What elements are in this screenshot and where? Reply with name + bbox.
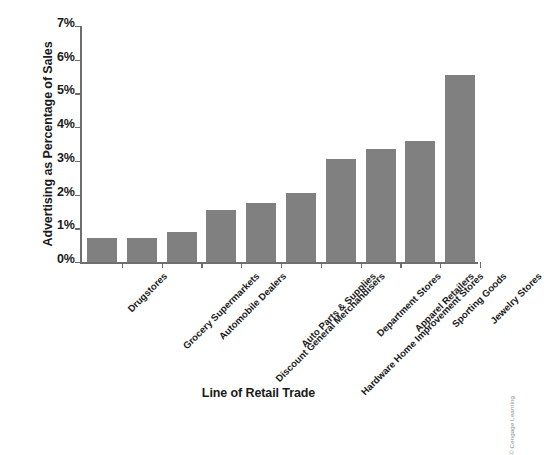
y-tick-mark: [75, 93, 81, 94]
y-tick-mark: [75, 127, 81, 128]
y-tick-label: 7%: [57, 17, 75, 30]
x-axis-label-0: Drugstores: [126, 271, 169, 314]
bar-2: [167, 232, 197, 262]
y-tick-label: 4%: [57, 118, 75, 131]
bar-5: [286, 193, 316, 262]
y-axis-title: Advertising as Percentage of Sales: [41, 19, 55, 269]
x-tick-mark-9: [480, 262, 481, 268]
x-axis-label-4: Auto Parts & Supplies: [300, 271, 378, 349]
bar-0: [87, 238, 117, 262]
x-tick-mark-2: [201, 262, 202, 268]
y-tick-label: 2%: [57, 186, 75, 199]
y-tick-label: 1%: [57, 219, 75, 232]
y-tick-mark: [75, 228, 81, 229]
y-tick-label: 3%: [57, 152, 75, 165]
bar-6: [326, 159, 356, 262]
x-axis-line: [80, 262, 478, 264]
x-axis-label-7: Apparel Retailers: [413, 271, 476, 334]
y-tick-label: 6%: [57, 51, 75, 64]
bar-8: [405, 141, 435, 262]
bar-3: [206, 210, 236, 262]
y-tick-mark: [75, 262, 81, 263]
bar-4: [246, 203, 276, 262]
x-tick-mark-3: [241, 262, 242, 268]
plot-area: 0%1%2%3%4%5%6%7%: [80, 26, 478, 262]
x-tick-mark-1: [162, 262, 163, 268]
x-tick-mark-7: [400, 262, 401, 268]
x-tick-mark-0: [122, 262, 123, 268]
y-tick-label: 0%: [57, 253, 75, 266]
bar-1: [127, 238, 157, 262]
x-tick-mark-6: [361, 262, 362, 268]
x-tick-mark-4: [281, 262, 282, 268]
y-tick-mark: [75, 195, 81, 196]
x-tick-mark-8: [440, 262, 441, 268]
bar-7: [366, 149, 396, 262]
y-axis-line: [80, 26, 82, 262]
x-axis-label-3: Discount General Merchandisers: [274, 271, 387, 384]
y-tick-label: 5%: [57, 84, 75, 97]
x-axis-title: Line of Retail Trade: [0, 386, 517, 400]
y-tick-mark: [75, 60, 81, 61]
y-tick-mark: [75, 161, 81, 162]
copyright-credit: © Cengage Learning: [508, 396, 515, 455]
x-tick-mark-5: [321, 262, 322, 268]
bar-9: [445, 75, 475, 262]
y-tick-mark: [75, 26, 81, 27]
